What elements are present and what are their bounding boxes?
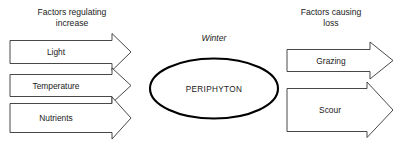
periphyton-flow-diagram: Factors regulating increase Factors caus… <box>0 0 401 149</box>
output-arrow-grazing-label: Grazing <box>316 56 346 66</box>
diagram-canvas: Factors regulating increase Factors caus… <box>0 0 401 149</box>
output-arrow-grazing: Grazing <box>287 42 393 79</box>
periphyton-label: PERIPHYTON <box>186 85 243 94</box>
output-arrow-scour-label: Scour <box>319 105 341 115</box>
right-header-line2: loss <box>323 18 338 28</box>
input-arrow-light-shape <box>10 34 131 71</box>
output-arrow-scour: Scour <box>287 82 393 138</box>
input-arrow-nutrients: Nutrients <box>10 97 131 139</box>
input-arrow-nutrients-label: Nutrients <box>39 113 73 123</box>
input-arrow-temperature-label: Temperature <box>32 81 79 91</box>
left-header-line2: increase <box>56 18 89 28</box>
input-arrow-light-label: Light <box>47 47 66 57</box>
input-arrow-light: Light <box>10 34 131 71</box>
left-header-line1: Factors regulating <box>38 7 107 17</box>
periphyton-node: PERIPHYTON <box>150 59 278 119</box>
right-header-line1: Factors causing <box>301 7 362 17</box>
season-label: Winter <box>202 33 228 43</box>
